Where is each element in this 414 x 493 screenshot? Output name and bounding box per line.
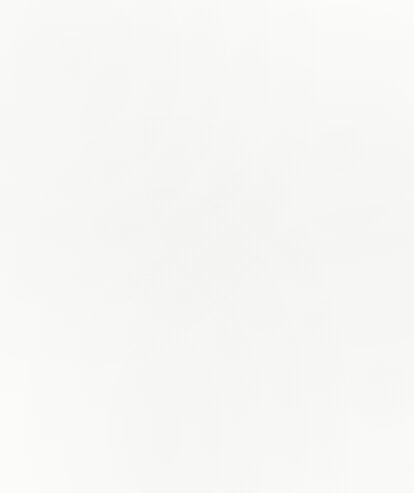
- bar-row[interactable]: Tolerance4: [20, 282, 398, 295]
- bar-track: 7: [182, 182, 398, 195]
- bar-fill[interactable]: [182, 362, 186, 375]
- bar-fill[interactable]: [182, 82, 368, 95]
- bar-fill[interactable]: [182, 282, 199, 295]
- bar-track: 6: [182, 222, 398, 235]
- bar-track: 10: [182, 162, 398, 175]
- bar-value-label: 2: [213, 344, 217, 353]
- bar-category-label: Tolerance: [150, 284, 182, 293]
- bar-row[interactable]: Hockey1: [20, 362, 398, 375]
- bar-row[interactable]: Peace/peacefulness7: [20, 202, 398, 215]
- bar-row[interactable]: The North/Arctic1: [20, 382, 398, 395]
- chart-subtitle: 2017 Unprompted responses: [56, 53, 176, 63]
- bar-fill[interactable]: [182, 262, 204, 275]
- bar-fill[interactable]: [182, 414, 221, 427]
- bar-track: 14: [182, 122, 398, 135]
- bar-track: 1: [182, 362, 398, 375]
- bar-row[interactable]: The people (non-specific)10: [20, 162, 398, 175]
- bar-value-label: 7: [235, 184, 239, 193]
- bar-value-label: 1: [188, 384, 192, 393]
- bar-chart-plot-area: Multiculturalism/diversity43Land/geograp…: [20, 82, 398, 422]
- bar-category-label: Weather/climate/cold: [112, 184, 182, 193]
- bar-fill[interactable]: [182, 122, 243, 135]
- bar-value-label: 3: [218, 304, 222, 313]
- bar-row[interactable]: Aboriginal peoples/culture2: [20, 342, 398, 355]
- bar-track: 6: [182, 242, 398, 255]
- bar-fill[interactable]: [182, 222, 208, 235]
- bar-track: 3: [182, 322, 398, 335]
- bar-fill[interactable]: [182, 162, 225, 175]
- bar-value-label: 3: [218, 324, 222, 333]
- bar-category-label: Peace/peacefulness: [115, 204, 183, 213]
- bar-value-label: 10: [244, 164, 252, 173]
- chart-title: What makes Canada unique?: [55, 28, 265, 46]
- bar-row[interactable]: Bilingualism3: [20, 322, 398, 335]
- bar-value-label: 14: [261, 124, 269, 133]
- bar-category-label: dk/na: [164, 436, 182, 445]
- bar-value-label: 11: [249, 144, 257, 153]
- bar-row[interactable]: Friendly/humble/nice people11: [20, 142, 398, 155]
- bar-value-label: 43: [387, 84, 395, 93]
- bar-value-label: 1: [188, 364, 192, 373]
- bar-fill[interactable]: [182, 342, 191, 355]
- bar-row[interactable]: Universal health care6: [20, 242, 398, 255]
- bar-value-label: 4: [222, 284, 226, 293]
- bar-fill[interactable]: [182, 322, 195, 335]
- bar-track: 11: [182, 142, 398, 155]
- bar-value-label: 7: [235, 204, 239, 213]
- bar-category-label: Natural resources: [123, 224, 182, 233]
- bar-value-label: 6: [231, 244, 235, 253]
- bar-fill[interactable]: [182, 102, 256, 115]
- bar-track: 3: [182, 302, 398, 315]
- bar-category-label: The people (non-specific): [98, 164, 182, 173]
- bar-category-label: Bilingualism: [142, 324, 182, 333]
- bar-track: 9: [182, 414, 398, 427]
- bar-fill[interactable]: [182, 182, 212, 195]
- bar-value-label: 7: [234, 436, 238, 445]
- bar-category-label: Aboriginal peoples/culture: [96, 344, 182, 353]
- bar-category-label: Universal health care: [112, 244, 182, 253]
- bar-category-label: Land/geography: [128, 104, 182, 113]
- bar-row[interactable]: Other9: [20, 414, 398, 427]
- bar-category-label: The North/Arctic: [128, 384, 182, 393]
- bar-track: 17: [182, 102, 398, 115]
- bar-row[interactable]: Political system5: [20, 262, 398, 275]
- bar-track: 5: [182, 262, 398, 275]
- bar-row[interactable]: Values3: [20, 302, 398, 315]
- bar-category-label: Multiculturalism/diversity: [101, 84, 182, 93]
- bar-value-label: 6: [231, 224, 235, 233]
- bar-track: 1: [182, 382, 398, 395]
- bar-row[interactable]: Multiculturalism/diversity43: [20, 82, 398, 95]
- bar-value-label: 5: [226, 264, 230, 273]
- bar-category-label: Freedom/free country/democracy: [72, 124, 182, 133]
- bar-row[interactable]: Weather/climate/cold7: [20, 182, 398, 195]
- bar-category-label: Political system: [130, 264, 182, 273]
- bar-category-label: Hockey: [157, 364, 182, 373]
- bar-track: 2: [182, 342, 398, 355]
- bar-category-label: Friendly/humble/nice people: [88, 144, 182, 153]
- bar-fill[interactable]: [182, 142, 230, 155]
- bar-fill[interactable]: [182, 302, 195, 315]
- bar-row[interactable]: Land/geography17: [20, 102, 398, 115]
- bar-row[interactable]: Natural resources6: [20, 222, 398, 235]
- bar-row[interactable]: Freedom/free country/democracy14: [20, 122, 398, 135]
- bar-fill[interactable]: [182, 242, 208, 255]
- bar-category-label: Other: [163, 416, 182, 425]
- bar-track: 4: [182, 282, 398, 295]
- bar-value-label: 9: [244, 416, 248, 425]
- bar-track: 7: [182, 202, 398, 215]
- bar-category-label: Values: [160, 304, 182, 313]
- bar-value-label: 17: [274, 104, 282, 113]
- bar-fill[interactable]: [182, 202, 212, 215]
- bar-track: 43: [182, 82, 398, 95]
- source-note: Environics Institute: Survey of Aborigin…: [74, 446, 263, 455]
- bar-fill[interactable]: [182, 382, 186, 395]
